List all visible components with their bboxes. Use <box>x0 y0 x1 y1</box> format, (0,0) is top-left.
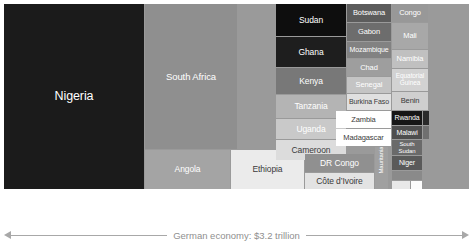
treemap-tile-malawi[interactable]: Malawi <box>392 126 422 139</box>
treemap-tile-label: Madagascar <box>336 134 391 142</box>
treemap-tile-label: Namibia <box>392 55 428 63</box>
treemap-tile-unlabeled-c[interactable] <box>392 171 422 180</box>
treemap-tile-label: Nigeria <box>4 90 144 103</box>
treemap-tile-unlabeled-e[interactable] <box>411 181 422 189</box>
treemap-tile-label: Benin <box>392 97 428 105</box>
treemap-tile-angola[interactable]: Angola <box>145 150 230 189</box>
treemap-tile-label: Ethiopia <box>231 165 304 174</box>
treemap-tile-congo[interactable]: Congo <box>392 4 428 22</box>
treemap-tile-namibia[interactable]: Namibia <box>392 50 428 68</box>
treemap-tile-label: Tanzania <box>276 102 346 111</box>
arrow-head-left-icon <box>10 196 17 204</box>
treemap-tile-label: Chad <box>347 64 391 72</box>
treemap-tile-label: Mauritania <box>378 161 384 174</box>
treemap-tile-nigeria[interactable]: Nigeria <box>4 4 144 189</box>
treemap-tile-botswana[interactable]: Botswana <box>347 4 391 22</box>
treemap-tile-label: Congo <box>392 9 428 17</box>
arrow-head-right-icon <box>462 231 469 239</box>
treemap-tile-mozambique[interactable]: Mozambique <box>347 42 391 58</box>
treemap-tile-rwanda[interactable]: Rwanda <box>392 111 422 125</box>
arrow-head-right-icon <box>456 196 463 204</box>
treemap-tile-label: Mali <box>392 32 428 40</box>
treemap-tile-mali[interactable]: Mali <box>392 23 428 49</box>
treemap-tile-label: Mozambique <box>347 46 391 53</box>
subsaharan-total-annotation: Total sub-Saharan economy: $2.7 trillion <box>10 193 463 207</box>
treemap-tile-label: Malawi <box>392 129 422 136</box>
treemap-tile-south-africa[interactable]: South Africa <box>145 4 237 149</box>
treemap-tile-label: South Sudan <box>392 141 422 153</box>
treemap-tile-equatorial-guinea[interactable]: Equatorial Guinea <box>392 69 428 91</box>
arrow-line-left <box>17 200 146 201</box>
treemap-tile-label: South Africa <box>145 72 237 82</box>
treemap-tile-niger[interactable]: Niger <box>392 156 422 170</box>
treemap-tile-unlabeled-b[interactable] <box>423 126 429 139</box>
treemap-tile-senegal[interactable]: Senegal <box>347 77 391 93</box>
treemap-tile-south-sudan[interactable]: South Sudan <box>392 140 422 155</box>
treemap-tile-benin[interactable]: Benin <box>392 92 428 110</box>
treemap-tile-cote-divoire[interactable]: Côte d’Ivoire <box>305 173 374 189</box>
treemap-tile-mauritania[interactable]: Mauritania <box>375 147 388 189</box>
treemap-tile-unlabeled-a[interactable] <box>423 111 429 125</box>
treemap-tile-unlabeled-d[interactable] <box>392 181 410 189</box>
arrow-line-left <box>11 235 167 236</box>
treemap-tile-label: Gabon <box>347 28 391 36</box>
treemap-tile-label: Ghana <box>276 48 346 57</box>
treemap-tile-label: Kenya <box>276 77 346 86</box>
german-economy-annotation: German economy: $3.2 trillion <box>4 228 469 242</box>
arrow-line-right <box>306 235 462 236</box>
arrow-head-left-icon <box>4 231 11 239</box>
treemap-tile-label: Burkina Faso <box>347 98 391 105</box>
treemap-tile-label: Rwanda <box>392 114 422 121</box>
treemap-tile-label: Angola <box>145 165 230 174</box>
treemap-plot-area: NigeriaSouth AfricaAngolaEthiopiaSudanGh… <box>4 4 469 189</box>
treemap-tile-label: Senegal <box>347 81 391 89</box>
treemap-tile-label: Botswana <box>347 9 391 17</box>
treemap-tile-ghana[interactable]: Ghana <box>276 37 346 67</box>
treemap-tile-burkina-faso[interactable]: Burkina Faso <box>347 94 391 110</box>
treemap-tile-label: DR Congo <box>305 159 374 168</box>
treemap-figure: NigeriaSouth AfricaAngolaEthiopiaSudanGh… <box>0 0 473 249</box>
treemap-tile-label: Côte d’Ivoire <box>305 177 374 186</box>
treemap-tile-label: Niger <box>392 159 422 166</box>
subsaharan-total-label: Total sub-Saharan economy: $2.7 trillion <box>146 195 328 206</box>
treemap-tile-label: Sudan <box>276 16 346 25</box>
treemap-tile-label: Zambia <box>336 116 391 124</box>
treemap-tile-zambia[interactable]: Zambia <box>336 111 391 128</box>
german-economy-label: German economy: $3.2 trillion <box>167 230 306 241</box>
treemap-tile-madagascar[interactable]: Madagascar <box>336 129 391 146</box>
treemap-tile-chad[interactable]: Chad <box>347 59 391 76</box>
treemap-tile-sudan[interactable]: Sudan <box>276 4 346 36</box>
treemap-tile-kenya[interactable]: Kenya <box>276 68 346 94</box>
treemap-tile-label: Equatorial Guinea <box>392 73 428 87</box>
treemap-tile-dr-congo[interactable]: DR Congo <box>305 154 374 172</box>
treemap-tile-gabon[interactable]: Gabon <box>347 23 391 41</box>
arrow-line-right <box>327 200 456 201</box>
